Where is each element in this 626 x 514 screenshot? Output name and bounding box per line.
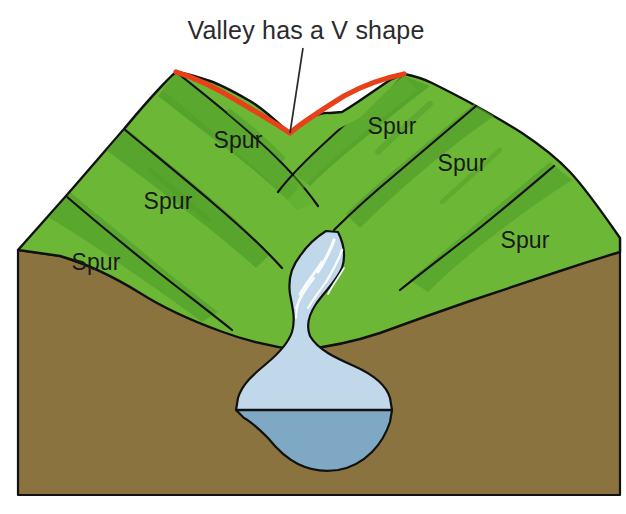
valley-diagram [0,0,626,514]
figure-canvas: Valley has a V shape Spur Spur Spur Spur… [0,0,626,514]
leader-line [290,48,303,133]
page-title: Valley has a V shape [187,16,424,45]
